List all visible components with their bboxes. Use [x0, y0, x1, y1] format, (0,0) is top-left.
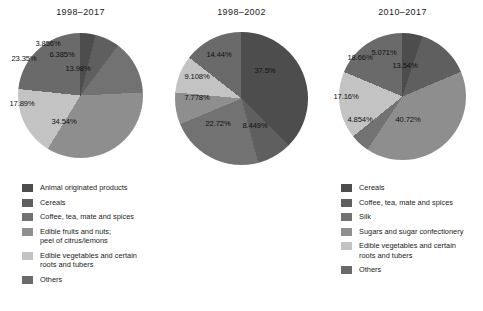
pie-slices [18, 33, 143, 158]
chart-title-2: 1998–2002 [161, 7, 322, 19]
legend-item: Coffee, tea, mate and spices [341, 198, 483, 207]
pie-slice-label: 40.72% [395, 115, 420, 124]
legend-swatch-icon [22, 184, 33, 192]
legend-item: Edible vegetables and certain roots and … [341, 241, 483, 260]
legend-item: Silk [341, 212, 483, 221]
chart-title-3: 2010–2017 [322, 7, 483, 19]
pie-slice-label: 9.108% [184, 72, 209, 81]
legend-swatch-icon [341, 242, 352, 250]
legend-item: Sugars and sugar confectionery [341, 227, 483, 236]
pie-chart-1: 3.856%6.385%13.98%34.54%17.89%23.35% [0, 21, 161, 173]
pie-slice-label: 13.54% [392, 61, 417, 70]
legend-swatch-icon [341, 184, 352, 192]
legend-item: Others [341, 265, 483, 274]
legend-item: Edible fruits and nuts; peel of citrus/l… [22, 227, 170, 246]
legend-swatch-icon [341, 266, 352, 274]
legend-item-label: Cereals [40, 198, 65, 207]
pie-slice-label: 3.856% [35, 39, 60, 48]
pie-panel-1: 1998–2017 3.856%6.385%13.98%34.54%17.89%… [0, 0, 161, 173]
pie-slice-label: 37.5% [254, 66, 275, 75]
pie-slice-label: 18.66% [347, 53, 372, 62]
pie-slice-label: 8.449% [242, 121, 267, 130]
pie-slice-label: 23.35% [11, 54, 36, 63]
pie-slice-label: 7.778% [184, 93, 209, 102]
legend-2: CerealsCoffee, tea, mate and spicesSilkS… [341, 183, 483, 280]
legend-swatch-icon [22, 199, 33, 207]
figure-root: 1998–2017 3.856%6.385%13.98%34.54%17.89%… [0, 0, 483, 311]
legend-item-label: Edible fruits and nuts; peel of citrus/l… [40, 227, 111, 246]
legend-item-label: Edible vegetables and certain roots and … [359, 241, 456, 260]
pie-slice-label: 34.54% [51, 117, 76, 126]
pie-chart-2: 37.5%8.449%22.72%7.778%9.108%14.44% [161, 21, 322, 173]
pie-slice-label: 17.89% [9, 99, 34, 108]
legend-item-label: Cereals [359, 183, 384, 192]
pie-panels: 1998–2017 3.856%6.385%13.98%34.54%17.89%… [0, 0, 483, 173]
pie-slice-label: 17.16% [333, 92, 358, 101]
legend-item: Cereals [22, 198, 170, 207]
legend-swatch-icon [22, 228, 33, 236]
legend-swatch-icon [22, 276, 33, 284]
pie-slice-label: 6.385% [49, 50, 74, 59]
legend-item-label: Coffee, tea, mate and spices [40, 212, 134, 221]
legend-swatch-icon [341, 199, 352, 207]
chart-title-1: 1998–2017 [0, 7, 161, 19]
legend-item: Coffee, tea, mate and spices [22, 212, 170, 221]
legend-item-label: Animal originated products [40, 183, 128, 192]
legend-item-label: Silk [359, 212, 371, 221]
pie-slice-label: 14.44% [206, 50, 231, 59]
legend-item: Cereals [341, 183, 483, 192]
pie-slice-label: 5.071% [371, 48, 396, 57]
legend-swatch-icon [22, 213, 33, 221]
pie-panel-3: 2010–2017 5.071%13.54%40.72%4.854%17.16%… [322, 0, 483, 173]
legend-item-label: Others [359, 265, 381, 274]
pie-panel-2: 1998–2002 37.5%8.449%22.72%7.778%9.108%1… [161, 0, 322, 173]
pie-slice-label: 22.72% [205, 119, 230, 128]
legend-item: Others [22, 275, 170, 284]
pie-chart-3: 5.071%13.54%40.72%4.854%17.16%18.66% [322, 21, 483, 173]
legend-swatch-icon [341, 228, 352, 236]
legend-swatch-icon [22, 252, 33, 260]
pie-slice-label: 13.98% [65, 64, 90, 73]
pie-slice-label: 4.854% [347, 115, 372, 124]
legend-item-label: Others [40, 275, 62, 284]
legend-1: Animal originated productsCerealsCoffee,… [22, 183, 170, 289]
legend-item: Animal originated products [22, 183, 170, 192]
legend-swatch-icon [341, 213, 352, 221]
legend-item-label: Coffee, tea, mate and spices [359, 198, 453, 207]
legend-item: Edible vegetables and certain roots and … [22, 251, 170, 270]
legend-item-label: Sugars and sugar confectionery [359, 227, 463, 236]
legend-item-label: Edible vegetables and certain roots and … [40, 251, 137, 270]
